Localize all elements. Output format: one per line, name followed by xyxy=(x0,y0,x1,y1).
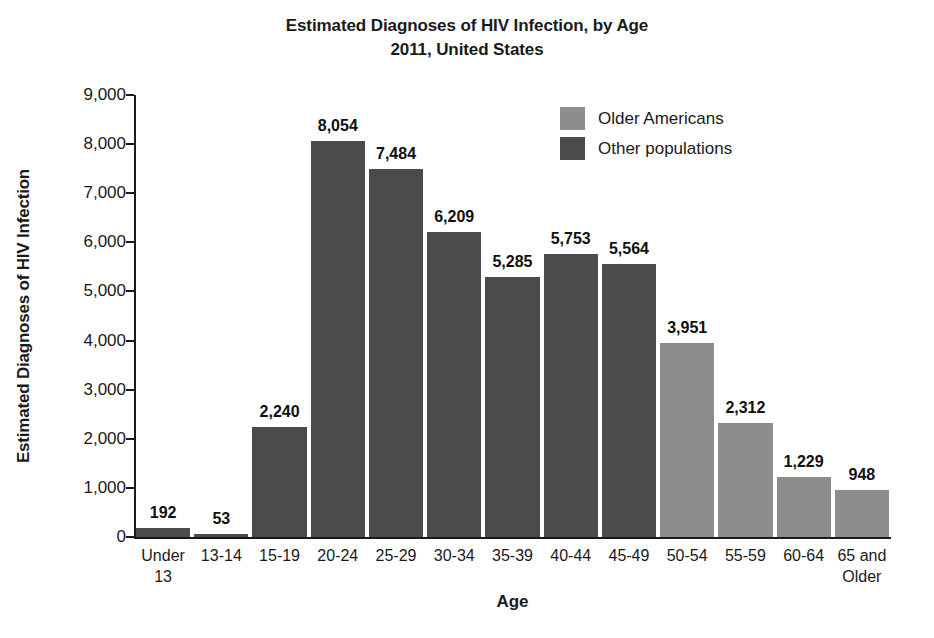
y-axis-tick xyxy=(126,389,134,391)
x-axis-tick-label-line1: 60-64 xyxy=(783,547,824,564)
bar[interactable] xyxy=(194,534,248,537)
y-axis-tick-label: 3,000 xyxy=(48,381,126,398)
chart-legend: Older AmericansOther populations xyxy=(560,103,820,163)
y-axis-tick xyxy=(126,340,134,342)
x-axis-tick-label-line1: 35-39 xyxy=(492,547,533,564)
bar-slot: 53 xyxy=(192,95,250,537)
x-axis-tick-label-line1: 40-44 xyxy=(550,547,591,564)
y-axis-tick xyxy=(126,487,134,489)
x-axis-title: Age xyxy=(134,592,891,612)
bar[interactable] xyxy=(660,343,714,537)
chart-title-line1: Estimated Diagnoses of HIV Infection, by… xyxy=(286,16,648,35)
bar-chart: Estimated Diagnoses of HIV Infection, by… xyxy=(0,0,934,638)
bar[interactable] xyxy=(777,477,831,537)
bar-slot: 192 xyxy=(134,95,192,537)
x-axis-tick-labels: Under1313-1415-1920-2425-2930-3435-3940-… xyxy=(134,545,891,599)
bar[interactable] xyxy=(485,277,539,537)
y-axis-tick xyxy=(126,290,134,292)
x-axis-tick-label-line1: 30-34 xyxy=(434,547,475,564)
x-axis-tick-label-line1: 15-19 xyxy=(259,547,300,564)
y-axis-tick-label: 4,000 xyxy=(48,332,126,349)
y-axis-tick-label: 6,000 xyxy=(48,233,126,250)
bar[interactable] xyxy=(427,232,481,537)
y-axis-tick-label: 5,000 xyxy=(48,282,126,299)
bar-slot: 6,209 xyxy=(425,95,483,537)
x-axis-tick-label-line1: 13-14 xyxy=(201,547,242,564)
legend-swatch-icon xyxy=(560,137,585,160)
x-axis-tick-label-line1: 45-49 xyxy=(608,547,649,564)
chart-title: Estimated Diagnoses of HIV Infection, by… xyxy=(0,14,934,62)
bar-slot: 5,285 xyxy=(483,95,541,537)
x-axis-tick-label-line1: 25-29 xyxy=(376,547,417,564)
bar[interactable] xyxy=(252,427,306,537)
x-axis-tick-label-line1: 55-59 xyxy=(725,547,766,564)
bar-slot: 2,240 xyxy=(250,95,308,537)
x-axis-tick-label-line1: 20-24 xyxy=(317,547,358,564)
x-axis-tick-label-line1: Under xyxy=(141,547,185,564)
y-axis-title: Estimated Diagnoses of HIV Infection xyxy=(14,169,34,463)
legend-item-label: Other populations xyxy=(598,140,732,157)
legend-swatch-icon xyxy=(560,107,585,130)
x-axis-tick-label-line2: Older xyxy=(825,566,899,587)
bar[interactable] xyxy=(311,141,365,537)
y-axis-tick-label: 1,000 xyxy=(48,479,126,496)
y-axis-tick xyxy=(126,143,134,145)
y-axis-tick-label: 2,000 xyxy=(48,430,126,447)
y-axis-tick xyxy=(126,94,134,96)
bar[interactable] xyxy=(835,490,889,537)
bar[interactable] xyxy=(602,264,656,537)
y-axis-tick-label: 8,000 xyxy=(48,135,126,152)
x-axis-tick-label: 65 andOlder xyxy=(825,545,899,587)
x-axis-tick-label-line1: 65 and xyxy=(837,547,886,564)
y-axis-tick-labels: 9,0008,0007,0006,0005,0004,0003,0002,000… xyxy=(42,95,126,537)
legend-item[interactable]: Older Americans xyxy=(560,103,820,133)
chart-title-line2: 2011, United States xyxy=(0,38,934,62)
bar-value-label: 948 xyxy=(819,467,905,483)
bar[interactable] xyxy=(544,254,598,537)
bar-slot: 7,484 xyxy=(367,95,425,537)
y-axis-tick xyxy=(126,192,134,194)
y-axis-tick-label: 0 xyxy=(48,528,126,545)
y-axis-tick xyxy=(126,438,134,440)
y-axis-tick-label: 7,000 xyxy=(48,184,126,201)
y-axis-tick-label: 9,000 xyxy=(48,86,126,103)
bar[interactable] xyxy=(136,528,190,537)
x-axis-tick-label-line1: 50-54 xyxy=(667,547,708,564)
bar-slot: 948 xyxy=(833,95,891,537)
legend-item[interactable]: Other populations xyxy=(560,133,820,163)
bar[interactable] xyxy=(718,423,772,537)
x-axis-line xyxy=(134,537,891,539)
y-axis-tick xyxy=(126,536,134,538)
y-axis-title-container: Estimated Diagnoses of HIV Infection xyxy=(6,95,42,537)
legend-item-label: Older Americans xyxy=(598,110,724,127)
x-axis-tick-label-line2: 13 xyxy=(126,566,200,587)
y-axis-tick xyxy=(126,241,134,243)
